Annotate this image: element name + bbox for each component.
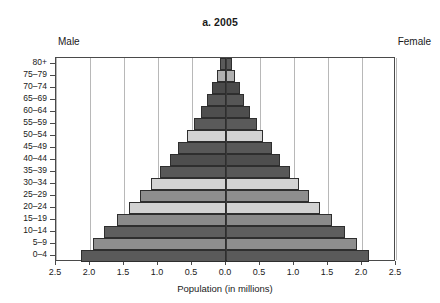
bars-layer <box>56 58 394 260</box>
bar-row <box>56 190 394 202</box>
y-axis-tick <box>50 243 55 244</box>
bar-female <box>226 166 290 178</box>
y-axis-label: 10–14 <box>0 226 47 235</box>
bar-female <box>226 154 280 166</box>
bar-female <box>226 118 257 130</box>
bar-male <box>81 250 226 262</box>
y-axis-label: 35–39 <box>0 166 47 175</box>
bar-male <box>151 178 226 190</box>
chart-title: a. 2005 <box>0 16 440 28</box>
y-axis-tick <box>50 255 55 256</box>
bar-male <box>160 166 226 178</box>
bar-row <box>56 82 394 94</box>
y-axis-label: 60–64 <box>0 106 47 115</box>
bar-row <box>56 214 394 226</box>
bar-row <box>56 118 394 130</box>
x-axis-label: 2.5 <box>375 267 415 278</box>
population-pyramid-chart: a. 2005 Male Female 80+75–7970–7465–6960… <box>0 0 440 303</box>
bar-female <box>226 106 250 118</box>
bar-female <box>226 82 240 94</box>
bar-male <box>170 154 226 166</box>
y-axis-ticks <box>49 57 55 261</box>
female-side-label: Female <box>398 36 431 47</box>
y-axis-tick <box>50 123 55 124</box>
y-axis-tick <box>50 183 55 184</box>
bar-male <box>93 238 226 250</box>
y-axis-label: 20–24 <box>0 202 47 211</box>
y-axis-label: 75–79 <box>0 70 47 79</box>
bar-male <box>194 118 226 130</box>
bar-row <box>56 250 394 262</box>
y-axis-label: 15–19 <box>0 214 47 223</box>
y-axis-labels: 80+75–7970–7465–6960–6455–5950–5445–4940… <box>0 57 47 261</box>
male-side-label: Male <box>58 36 80 47</box>
bar-female <box>226 178 299 190</box>
bar-male <box>217 70 226 82</box>
bar-female <box>226 142 272 154</box>
bar-female <box>226 238 357 250</box>
y-axis-tick <box>50 63 55 64</box>
y-axis-tick <box>50 99 55 100</box>
bar-female <box>226 190 309 202</box>
bar-female <box>226 130 263 142</box>
y-axis-label: 65–69 <box>0 94 47 103</box>
y-axis-label: 80+ <box>0 58 47 67</box>
bar-female <box>226 94 244 106</box>
bar-row <box>56 202 394 214</box>
y-axis-tick <box>50 135 55 136</box>
bar-male <box>129 202 226 214</box>
bar-male <box>140 190 226 202</box>
x-axis-tick <box>395 261 396 265</box>
y-axis-label: 5–9 <box>0 238 47 247</box>
y-axis-tick <box>50 147 55 148</box>
bar-male <box>212 82 226 94</box>
bar-female <box>226 70 235 82</box>
y-axis-tick <box>50 171 55 172</box>
bar-row <box>56 178 394 190</box>
y-axis-label: 30–34 <box>0 178 47 187</box>
bar-male <box>117 214 226 226</box>
bar-row <box>56 106 394 118</box>
bar-row <box>56 130 394 142</box>
bar-row <box>56 238 394 250</box>
y-axis-label: 55–59 <box>0 118 47 127</box>
y-axis-label: 25–29 <box>0 190 47 199</box>
y-axis-label: 70–74 <box>0 82 47 91</box>
gridline <box>396 58 397 260</box>
bar-female <box>226 226 345 238</box>
bar-row <box>56 142 394 154</box>
y-axis-tick <box>50 75 55 76</box>
bar-female <box>226 214 332 226</box>
y-axis-tick <box>50 195 55 196</box>
bar-row <box>56 70 394 82</box>
bar-row <box>56 166 394 178</box>
y-axis-label: 40–44 <box>0 154 47 163</box>
bar-male <box>178 142 226 154</box>
y-axis-tick <box>50 111 55 112</box>
y-axis-tick <box>50 207 55 208</box>
bar-row <box>56 58 394 70</box>
y-axis-label: 45–49 <box>0 142 47 151</box>
x-axis-caption: Population (in millions) <box>55 283 395 294</box>
bar-male <box>187 130 226 142</box>
bar-male <box>201 106 226 118</box>
center-axis-line <box>226 58 227 260</box>
y-axis-tick <box>50 87 55 88</box>
y-axis-tick <box>50 231 55 232</box>
y-axis-label: 0–4 <box>0 250 47 259</box>
bar-row <box>56 154 394 166</box>
plot-area <box>55 57 395 261</box>
y-axis-tick <box>50 159 55 160</box>
bar-female <box>226 250 369 262</box>
y-axis-label: 50–54 <box>0 130 47 139</box>
bar-female <box>226 202 320 214</box>
bar-row <box>56 226 394 238</box>
bar-row <box>56 94 394 106</box>
x-axis-labels: 2.52.01.51.00.50.00.51.01.52.02.5 <box>0 267 440 279</box>
bar-male <box>207 94 226 106</box>
bar-male <box>104 226 226 238</box>
y-axis-tick <box>50 219 55 220</box>
